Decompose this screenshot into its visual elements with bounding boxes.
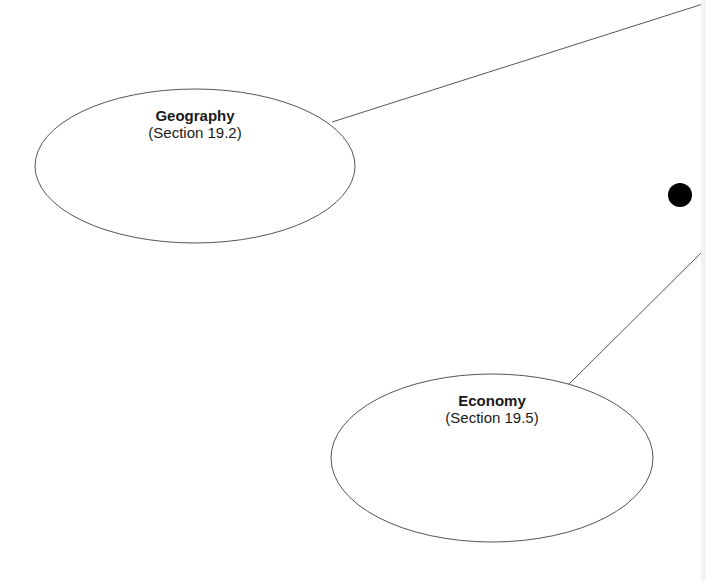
geography-label: Geography (Section 19.2) bbox=[95, 107, 295, 141]
geography-title: Geography bbox=[95, 107, 295, 124]
bullet-dot-icon bbox=[668, 183, 692, 207]
connector-geography bbox=[332, 3, 706, 122]
connector-economy bbox=[569, 248, 706, 384]
economy-section: (Section 19.5) bbox=[392, 409, 592, 426]
concept-map-diagram: Geography (Section 19.2) Economy (Sectio… bbox=[0, 0, 706, 581]
page-edge-strip bbox=[701, 0, 706, 581]
economy-label: Economy (Section 19.5) bbox=[392, 392, 592, 426]
geography-section: (Section 19.2) bbox=[95, 124, 295, 141]
diagram-canvas bbox=[0, 0, 706, 581]
economy-title: Economy bbox=[392, 392, 592, 409]
